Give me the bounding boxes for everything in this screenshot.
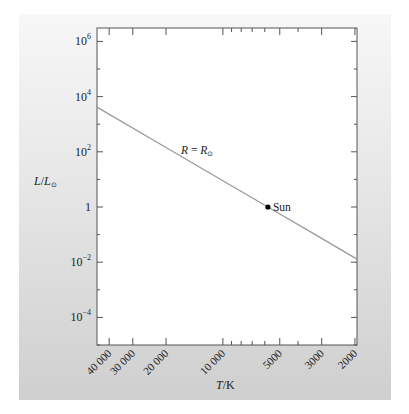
plot-area — [97, 28, 357, 345]
sun-marker — [265, 204, 270, 209]
sun-label: Sun — [273, 201, 291, 213]
x-tick-label: 40 000 — [84, 347, 114, 377]
x-tick-label: 2000 — [335, 347, 359, 371]
y-axis-tick-labels: 106104102110−210−4 — [70, 32, 91, 324]
x-axis-label: T/K — [216, 378, 235, 392]
x-tick-label: 20 000 — [141, 347, 171, 377]
y-axis-label: L/L⊙ — [33, 174, 57, 189]
y-tick-label: 10−4 — [70, 308, 91, 324]
x-tick-label: 5000 — [260, 347, 284, 371]
x-tick-label: 30 000 — [107, 347, 137, 377]
y-tick-label: 102 — [75, 143, 91, 159]
x-tick-label: 10 000 — [197, 347, 227, 377]
x-tick-label: 3000 — [302, 347, 326, 371]
y-tick-label: 104 — [75, 88, 91, 104]
y-tick-label: 1 — [85, 200, 91, 214]
x-axis-tick-labels: 40 00030 00020 00010 000500030002000 — [84, 347, 360, 377]
hr-diagram-chart: 40 00030 00020 00010 000500030002000 106… — [0, 0, 409, 414]
y-tick-label: 10−2 — [70, 253, 91, 269]
y-tick-label: 106 — [75, 32, 91, 48]
